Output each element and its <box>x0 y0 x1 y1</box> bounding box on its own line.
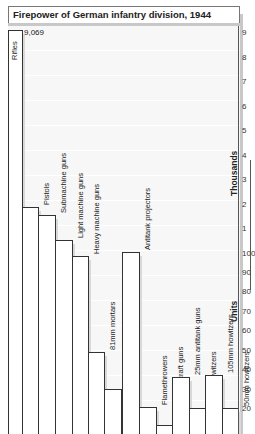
rifles-value-label: 9,069 <box>24 28 44 37</box>
bar-label: Submachine guns <box>59 153 68 213</box>
bar <box>172 377 190 434</box>
bar <box>156 425 173 434</box>
y-tick-label: 5 <box>242 126 246 135</box>
chart-title: Firepower of German infantry division, 1… <box>13 9 211 20</box>
bar <box>104 389 122 434</box>
bar <box>38 215 56 434</box>
bar <box>139 407 157 434</box>
y-tick-label: 8 <box>242 53 246 62</box>
bar <box>55 240 73 434</box>
y-tick-label: 9 <box>242 28 246 37</box>
y-tick-label: 40 <box>242 365 251 374</box>
bar-label: 105mm howitzers <box>226 314 235 373</box>
bar <box>72 256 89 434</box>
bar-label: 50mm howitzers <box>242 351 251 406</box>
bar-label: Light machine guns <box>76 173 85 238</box>
bar <box>122 252 140 434</box>
bar-label: 25mm antitank guns <box>193 307 202 375</box>
bar <box>222 408 239 434</box>
bar-label: Flamethrowers <box>160 355 169 405</box>
bar <box>8 30 23 434</box>
y-tick-label: 70 <box>242 307 251 316</box>
y-tick-label: 100 <box>242 249 255 258</box>
bar-label: 81mm mortars <box>108 302 117 350</box>
y-tick-label: 4 <box>242 151 246 160</box>
y-tick-label: 3 <box>242 175 246 184</box>
bar <box>88 352 105 434</box>
y-tick-label: 2 <box>242 200 246 209</box>
chart-title-box: Firepower of German infantry division, 1… <box>8 6 240 24</box>
y-tick-label: 50 <box>242 346 251 355</box>
y-axis-line <box>238 26 239 434</box>
bar-label: Antitank projectors <box>143 188 152 250</box>
bar <box>205 375 223 434</box>
y-axis-title-thousands: Thousands <box>229 151 239 196</box>
bar-label: Heavy machine guns <box>92 184 101 254</box>
y-tick-label: 20 <box>242 404 251 413</box>
axis-break-bracket <box>250 160 251 290</box>
y-tick-label: 60 <box>242 326 251 335</box>
bar-label: Pistols <box>42 183 51 205</box>
bar <box>22 207 39 434</box>
bar <box>189 408 206 434</box>
y-tick-label: 1 <box>242 224 246 233</box>
y-tick-label: 30 <box>242 385 251 394</box>
y-tick-label: 7 <box>242 77 246 86</box>
y-axis-title-units: Units <box>229 301 239 322</box>
y-tick-label: 6 <box>242 102 246 111</box>
bar-label: Rifles <box>10 41 19 60</box>
plot-area: RiflesPistolsSubmachine gunsLight machin… <box>8 26 240 434</box>
